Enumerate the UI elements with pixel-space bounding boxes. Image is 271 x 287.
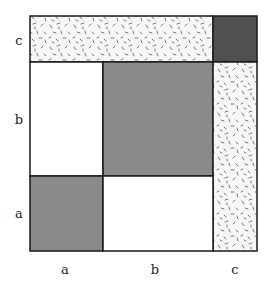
cell-b-a: [30, 62, 103, 176]
cell-a-a: [30, 176, 103, 251]
cell-ab-c: [213, 62, 257, 251]
cell-b-b: [103, 62, 213, 176]
col-label-a: a: [61, 263, 69, 276]
col-label-b: b: [151, 263, 159, 276]
area-diagram: c b a a b c: [0, 0, 271, 287]
cell-c-ab: [30, 16, 213, 62]
cell-c-c: [213, 16, 257, 62]
col-label-c: c: [231, 263, 238, 276]
row-label-b: b: [15, 113, 23, 126]
diagram-svg: [0, 0, 271, 287]
row-label-a: a: [15, 207, 23, 220]
cell-a-b: [103, 176, 213, 251]
row-label-c: c: [15, 34, 22, 47]
